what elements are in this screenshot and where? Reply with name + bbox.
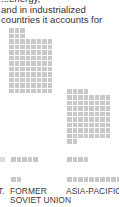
waffle-square (73, 89, 78, 94)
waffle-square (89, 123, 94, 128)
waffle-square (48, 72, 53, 77)
waffle-square (26, 72, 31, 77)
waffle-square (78, 134, 83, 139)
waffle-square (67, 139, 72, 144)
waffle-square (20, 61, 25, 66)
waffle-square (78, 89, 83, 94)
waffle-square (20, 67, 25, 72)
waffle-square (31, 78, 36, 83)
waffle-square (89, 177, 94, 182)
waffle-square (42, 78, 47, 83)
waffle-square (67, 157, 72, 162)
waffle-square (67, 95, 72, 100)
waffle-square (67, 106, 72, 111)
waffle-square (89, 117, 94, 122)
waffle-square (15, 50, 20, 55)
waffle-square (84, 106, 89, 111)
waffle-square (20, 28, 25, 33)
waffle-square (42, 39, 47, 44)
waffle-square (15, 89, 20, 94)
waffle-square (100, 101, 105, 106)
waffle-square (73, 157, 78, 162)
waffle-square (15, 34, 20, 39)
waffle-square (73, 106, 78, 111)
partial-label-left: T. (0, 187, 5, 196)
waffle-square (20, 39, 25, 44)
waffle-square (100, 106, 105, 111)
waffle-square (31, 67, 36, 72)
waffle-square (15, 83, 20, 88)
fsu-main-block (9, 39, 52, 93)
waffle-square (20, 78, 25, 83)
waffle-square (42, 50, 47, 55)
waffle-square (28, 157, 33, 162)
waffle-square (26, 50, 31, 55)
waffle-square (37, 61, 42, 66)
waffle-square (100, 95, 105, 100)
waffle-square (78, 106, 83, 111)
ap-main-block (67, 95, 110, 144)
waffle-square (37, 72, 42, 77)
waffle-square (84, 157, 89, 162)
waffle-square (15, 61, 20, 66)
waffle-square (42, 67, 47, 72)
waffle-square (0, 157, 5, 162)
waffle-square (73, 117, 78, 122)
waffle-square (89, 101, 94, 106)
waffle-square (15, 39, 20, 44)
waffle-square (95, 95, 100, 100)
waffle-square (37, 83, 42, 88)
waffle-square (84, 134, 89, 139)
waffle-square (42, 89, 47, 94)
waffle-square (31, 56, 36, 61)
waffle-square (67, 112, 72, 117)
waffle-square (95, 112, 100, 117)
waffle-square (9, 89, 14, 94)
waffle-square (48, 50, 53, 55)
waffle-square (73, 95, 78, 100)
waffle-square (95, 106, 100, 111)
waffle-square (20, 34, 25, 39)
waffle-square (106, 134, 111, 139)
waffle-square (31, 89, 36, 94)
waffle-square (78, 117, 83, 122)
waffle-square (37, 67, 42, 72)
waffle-square (37, 45, 42, 50)
waffle-square (42, 83, 47, 88)
waffle-square (11, 177, 16, 182)
waffle-square (22, 157, 27, 162)
ap-row-2 (67, 157, 88, 162)
waffle-square (26, 45, 31, 50)
waffle-square (26, 78, 31, 83)
waffle-square (67, 177, 72, 182)
waffle-square (15, 78, 20, 83)
waffle-square (95, 128, 100, 133)
waffle-square (26, 56, 31, 61)
waffle-square (89, 112, 94, 117)
waffle-square (20, 56, 25, 61)
waffle-square (42, 61, 47, 66)
waffle-square (20, 45, 25, 50)
waffle-square (67, 89, 72, 94)
waffle-square (106, 177, 111, 182)
waffle-square (84, 89, 89, 94)
waffle-square (89, 128, 94, 133)
waffle-square (17, 157, 22, 162)
waffle-square (67, 123, 72, 128)
waffle-square (17, 177, 22, 182)
waffle-square (9, 50, 14, 55)
waffle-square (73, 101, 78, 106)
waffle-square (106, 123, 111, 128)
intro-line-3: countries it accounts for (1, 15, 119, 26)
waffle-square (20, 89, 25, 94)
waffle-square (117, 177, 120, 182)
fsu-row-2 (11, 157, 38, 162)
waffle-square (48, 61, 53, 66)
waffle-square (31, 72, 36, 77)
waffle-square (100, 177, 105, 182)
waffle-square (73, 177, 78, 182)
waffle-square (42, 56, 47, 61)
waffle-square (9, 67, 14, 72)
ap-main-top-block (67, 89, 88, 94)
waffle-square (73, 139, 78, 144)
